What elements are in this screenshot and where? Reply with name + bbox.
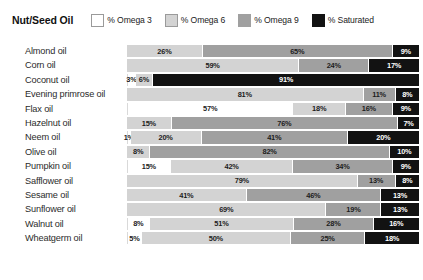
chart-title: Nut/Seed Oil bbox=[12, 14, 73, 26]
bar-segment-value: 82% bbox=[262, 147, 276, 156]
bar-segment-value: 9% bbox=[401, 162, 411, 171]
stacked-bar: 15%42%34%9% bbox=[127, 159, 419, 173]
bar-segment-value: 34% bbox=[335, 162, 349, 171]
bar-segment-value: 10% bbox=[397, 147, 411, 156]
bar-segment-sat: 9% bbox=[393, 103, 419, 115]
legend-swatch-omega-3 bbox=[91, 14, 104, 27]
chart-row: Wheatgerm oil5%50%25%18% bbox=[0, 231, 423, 245]
bar-segment-o6: 69% bbox=[127, 203, 326, 215]
bar-segment-o9: 28% bbox=[294, 218, 373, 230]
row-category-label: Neem oil bbox=[0, 130, 127, 144]
bar-segment-value: 8% bbox=[402, 176, 412, 185]
bar-segment-o6: 81% bbox=[127, 88, 364, 100]
stacked-bar: 79%13%8% bbox=[127, 174, 419, 188]
chart-row: Safflower oil79%13%8% bbox=[0, 174, 423, 188]
bar-segment-o6: 79% bbox=[127, 175, 358, 187]
legend-entry: % Omega 9 bbox=[238, 14, 298, 27]
bar-segment-o6: 15% bbox=[127, 117, 172, 129]
bar-segment-o6: 20% bbox=[131, 131, 202, 143]
legend-entry: % Omega 6 bbox=[165, 14, 225, 27]
bar-segment-value: 9% bbox=[401, 47, 411, 56]
legend-entry-label: % Omega 9 bbox=[254, 15, 298, 25]
legend-entry-list: % Omega 3% Omega 6% Omega 9% Saturated bbox=[91, 14, 423, 27]
bar-segment-o6: 51% bbox=[150, 218, 295, 230]
chart-row: Almond oil26%65%9% bbox=[0, 44, 423, 58]
bar-segment-value: 24% bbox=[327, 61, 341, 70]
legend-swatch-omega-9 bbox=[238, 14, 251, 27]
chart-row: Corn oil59%24%17% bbox=[0, 58, 423, 72]
chart-row: Walnut oil8%51%28%16% bbox=[0, 217, 423, 231]
bar-segment-value: 51% bbox=[214, 219, 228, 228]
bar-segment-value: 50% bbox=[209, 234, 223, 243]
chart-row: Flax oil57%18%16%9% bbox=[0, 102, 423, 116]
chart-legend: Nut/Seed Oil % Omega 3% Omega 6% Omega 9… bbox=[0, 8, 423, 32]
bar-segment-o9: 46% bbox=[247, 189, 381, 201]
stacked-bar: 3%6%91% bbox=[127, 73, 419, 87]
bar-segment-sat: 20% bbox=[348, 131, 419, 143]
bar-segment-value: 6% bbox=[139, 75, 149, 84]
bar-segment-o9: 82% bbox=[150, 146, 389, 158]
stacked-bar: 57%18%16%9% bbox=[127, 102, 419, 116]
bar-segment-value: 57% bbox=[203, 104, 217, 113]
bar-segment-sat: 7% bbox=[398, 117, 419, 129]
stacked-bar: 1%20%41%20% bbox=[127, 130, 419, 144]
bar-segment-value: 46% bbox=[306, 191, 320, 200]
chart-row: Hazelnut oil15%76%7% bbox=[0, 116, 423, 130]
chart-row: Coconut oil3%6%91% bbox=[0, 73, 423, 87]
stacked-bar-chart: Nut/Seed Oil % Omega 3% Omega 6% Omega 9… bbox=[0, 0, 423, 280]
bar-segment-o6: 8% bbox=[127, 146, 150, 158]
row-category-label: Coconut oil bbox=[0, 73, 127, 87]
bar-segment-value: 15% bbox=[142, 162, 156, 171]
bar-segment-value: 9% bbox=[401, 104, 411, 113]
bar-segment-value: 59% bbox=[206, 61, 220, 70]
bar-segment-value: 20% bbox=[376, 133, 390, 142]
bar-segment-value: 41% bbox=[179, 191, 193, 200]
bar-segment-o9: 11% bbox=[364, 88, 396, 100]
stacked-bar: 59%24%17% bbox=[127, 58, 419, 72]
bar-segment-sat: 13% bbox=[381, 203, 419, 215]
chart-row: Olive oil8%82%10% bbox=[0, 145, 423, 159]
legend-entry-label: % Omega 3 bbox=[107, 15, 151, 25]
bar-segment-value: 65% bbox=[290, 47, 304, 56]
chart-row: Evening primrose oil81%11%8% bbox=[0, 87, 423, 101]
legend-swatch-omega-6 bbox=[165, 14, 178, 27]
bar-segment-o6: 6% bbox=[136, 74, 154, 86]
bar-segment-value: 25% bbox=[321, 234, 335, 243]
bar-segment-sat: 18% bbox=[365, 232, 419, 244]
bar-segment-o9: 41% bbox=[202, 131, 348, 143]
bar-segment-o3: 15% bbox=[127, 160, 171, 172]
bar-segment-o9: 65% bbox=[203, 45, 393, 57]
bar-segment-o6: 26% bbox=[127, 45, 203, 57]
stacked-bar: 8%51%28%16% bbox=[127, 217, 419, 231]
row-category-label: Pumpkin oil bbox=[0, 159, 127, 173]
bar-segment-value: 19% bbox=[346, 205, 360, 214]
bar-segment-sat: 17% bbox=[369, 59, 419, 71]
bar-segment-sat: 91% bbox=[153, 74, 419, 86]
row-category-label: Sunflower oil bbox=[0, 202, 127, 216]
row-category-label: Evening primrose oil bbox=[0, 87, 127, 101]
row-category-label: Walnut oil bbox=[0, 217, 127, 231]
stacked-bar: 41%46%13% bbox=[127, 188, 419, 202]
bar-segment-value: 13% bbox=[393, 205, 407, 214]
bar-segment-value: 8% bbox=[133, 219, 143, 228]
bar-segment-value: 5% bbox=[129, 234, 139, 243]
row-category-label: Safflower oil bbox=[0, 174, 127, 188]
bar-segment-value: 42% bbox=[225, 162, 239, 171]
bar-segment-o6: 18% bbox=[293, 103, 346, 115]
bar-segment-value: 76% bbox=[277, 119, 291, 128]
bar-segment-o6: 59% bbox=[127, 59, 299, 71]
bar-segment-value: 13% bbox=[393, 191, 407, 200]
chart-row: Sunflower oil69%19%13% bbox=[0, 202, 423, 216]
legend-entry-label: % Saturated bbox=[328, 15, 374, 25]
bar-segment-value: 16% bbox=[362, 104, 376, 113]
bar-segment-value: 69% bbox=[219, 205, 233, 214]
chart-row: Neem oil1%20%41%20% bbox=[0, 130, 423, 144]
bar-segment-sat: 10% bbox=[390, 146, 419, 158]
legend-entry-label: % Omega 6 bbox=[181, 15, 225, 25]
bar-segment-o9: 16% bbox=[346, 103, 393, 115]
bar-segment-o9: 34% bbox=[293, 160, 392, 172]
stacked-bar: 69%19%13% bbox=[127, 202, 419, 216]
bar-segment-value: 13% bbox=[369, 176, 383, 185]
bar-segment-value: 41% bbox=[267, 133, 281, 142]
row-category-label: Corn oil bbox=[0, 58, 127, 72]
